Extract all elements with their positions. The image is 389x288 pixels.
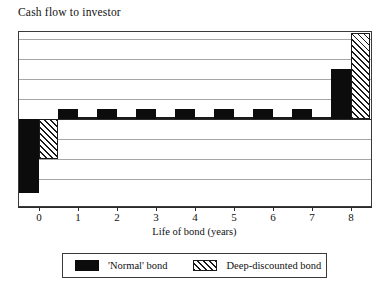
gridline <box>19 99 371 100</box>
x-tick-label-2: 2 <box>107 211 127 223</box>
x-tick-label-3: 3 <box>146 211 166 223</box>
chart-legend: 'Normal' bond Deep-discounted bond <box>62 253 327 278</box>
gridline <box>19 79 371 80</box>
x-tick-label-6: 6 <box>263 211 283 223</box>
x-tick-label-1: 1 <box>68 211 88 223</box>
bar-normal-year-0[interactable] <box>19 119 39 193</box>
bar-normal-year-3[interactable] <box>136 109 156 119</box>
cash-flow-chart-figure: Cash flow to investor Life of bond (year… <box>0 0 389 288</box>
gridline <box>19 39 371 40</box>
gridline <box>19 159 371 160</box>
zero-line <box>19 119 371 120</box>
gridline <box>19 139 371 140</box>
legend-entry-normal-bond[interactable]: 'Normal' bond <box>75 260 167 271</box>
bar-deep-year-7[interactable] <box>312 117 331 119</box>
x-tick-label-5: 5 <box>224 211 244 223</box>
bar-normal-year-7[interactable] <box>292 109 312 119</box>
legend-label-normal-bond: 'Normal' bond <box>108 260 167 271</box>
bar-normal-year-1[interactable] <box>58 109 78 119</box>
gridline <box>19 59 371 60</box>
bar-normal-year-6[interactable] <box>253 109 273 119</box>
bar-deep-year-1[interactable] <box>78 117 97 119</box>
bar-deep-year-6[interactable] <box>273 117 292 119</box>
bar-deep-year-8[interactable] <box>351 33 370 119</box>
x-tick-label-4: 4 <box>185 211 205 223</box>
solid-black-swatch-icon <box>75 260 99 271</box>
x-axis-title: Life of bond (years) <box>0 226 389 237</box>
bar-normal-year-4[interactable] <box>175 109 195 119</box>
bar-normal-year-5[interactable] <box>214 109 234 119</box>
hatched-swatch-icon <box>193 260 217 271</box>
x-tick-label-7: 7 <box>302 211 322 223</box>
plot-area <box>18 31 372 207</box>
x-tick-label-8: 8 <box>341 211 361 223</box>
bar-normal-year-8[interactable] <box>331 69 351 119</box>
bar-normal-year-2[interactable] <box>97 109 117 119</box>
legend-label-deep-discounted-bond: Deep-discounted bond <box>226 260 321 271</box>
x-tick-label-0: 0 <box>29 211 49 223</box>
bar-deep-year-0[interactable] <box>39 119 58 159</box>
bar-deep-year-5[interactable] <box>234 117 253 119</box>
chart-title: Cash flow to investor <box>18 6 121 18</box>
gridline <box>19 179 371 180</box>
bar-deep-year-3[interactable] <box>156 117 175 119</box>
legend-entry-deep-discounted-bond[interactable]: Deep-discounted bond <box>193 260 321 271</box>
bar-deep-year-2[interactable] <box>117 117 136 119</box>
bar-deep-year-4[interactable] <box>195 117 214 119</box>
